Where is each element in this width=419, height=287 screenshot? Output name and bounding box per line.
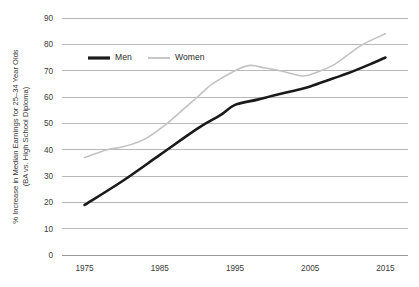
x-axis-tick-labels: 19751985199520052015	[75, 264, 395, 273]
chart-legend: MenWomen	[88, 52, 205, 62]
legend-item-men[interactable]: Men	[88, 52, 132, 62]
y-axis-title-line1: % Increase in Median Earnings for 25–34 …	[11, 49, 20, 224]
y-tick-label: 50	[44, 119, 54, 128]
chart-canvas: 9080706050403020100 19751985199520052015…	[0, 0, 419, 287]
gridlines-group	[62, 18, 408, 255]
legend-label-women: Women	[175, 52, 205, 62]
y-axis-title-line2: (BA vs. High School Diploma)	[21, 86, 30, 186]
line-chart: 9080706050403020100 19751985199520052015…	[0, 0, 419, 287]
y-tick-label: 0	[48, 251, 53, 260]
x-tick-label: 1995	[226, 264, 245, 273]
y-tick-label: 10	[44, 225, 54, 234]
x-tick-label: 1985	[151, 264, 170, 273]
y-tick-label: 90	[44, 14, 54, 23]
y-axis-title: % Increase in Median Earnings for 25–34 …	[11, 49, 30, 224]
y-tick-label: 60	[44, 93, 54, 102]
series-line-men	[85, 58, 386, 205]
x-tick-label: 1975	[75, 264, 94, 273]
y-tick-label: 20	[44, 198, 54, 207]
x-tick-label: 2005	[301, 264, 320, 273]
y-axis-tick-labels: 9080706050403020100	[44, 14, 54, 260]
y-tick-label: 80	[44, 40, 54, 49]
y-tick-label: 30	[44, 172, 54, 181]
legend-item-women[interactable]: Women	[148, 52, 205, 62]
x-tick-label: 2015	[376, 264, 395, 273]
y-tick-label: 70	[44, 67, 54, 76]
y-tick-label: 40	[44, 146, 54, 155]
legend-label-men: Men	[115, 52, 132, 62]
